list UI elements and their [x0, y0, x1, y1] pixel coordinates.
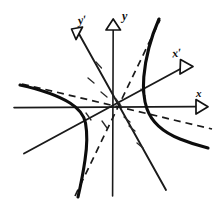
y-axis-line — [113, 24, 114, 196]
y-prime-axis-line — [79, 33, 167, 190]
x-prime-axis-arrowhead-icon — [180, 60, 193, 75]
hyperbola-rotated-axes-figure: x y x′ y′ — [0, 0, 224, 214]
tick-mark — [101, 92, 107, 97]
diagram-canvas — [0, 0, 224, 214]
tick-mark — [102, 121, 107, 128]
x-axis-line — [14, 107, 196, 108]
y-axis-label: y — [122, 10, 127, 22]
x-axis-arrowhead-icon — [196, 100, 208, 115]
y-axis-arrowhead-icon — [106, 19, 121, 30]
hyperbola-branch-left — [20, 85, 87, 197]
y-prime-axis-label: y′ — [77, 13, 87, 26]
tick-mark — [88, 78, 94, 83]
rotated-axes-group — [24, 27, 193, 190]
x-prime-axis-line — [24, 68, 183, 154]
x-prime-axis-label: x′ — [171, 47, 182, 60]
x-axis-label: x — [196, 88, 202, 99]
